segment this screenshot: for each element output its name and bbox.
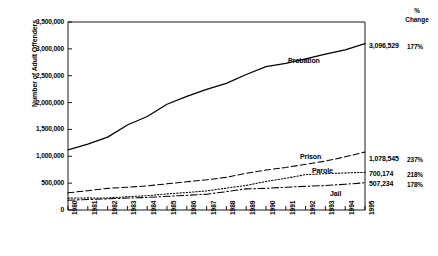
x-axis-tick-label: 1992 <box>309 201 316 215</box>
x-axis-tick-label: 1980 <box>71 201 78 215</box>
pct-change-parole: 218% <box>407 171 423 178</box>
x-axis-tick-label: 1995 <box>368 201 375 215</box>
x-axis-tick-label: 1991 <box>289 201 296 215</box>
x-axis-tick-labels: 1980198119821983198419851986198719881989… <box>0 0 438 256</box>
x-axis-tick-label: 1981 <box>91 201 98 215</box>
end-value-prison: 1,078,545 <box>369 155 399 162</box>
end-value-probation: 3,096,529 <box>369 42 399 49</box>
x-axis-tick-label: 1987 <box>210 201 217 215</box>
x-axis-tick-label: 1984 <box>150 201 157 215</box>
series-label-parole: Parole <box>312 167 333 174</box>
x-axis-tick-label: 1986 <box>190 201 197 215</box>
x-axis-tick-label: 1982 <box>111 201 118 215</box>
end-value-parole: 700,174 <box>369 170 393 177</box>
x-axis-tick-label: 1990 <box>269 201 276 215</box>
x-axis-tick-label: 1989 <box>249 201 256 215</box>
pct-change-prison: 237% <box>407 156 423 163</box>
line-chart: Number of Adult Offenders 0500,0001,000,… <box>0 0 438 256</box>
x-axis-tick-label: 1983 <box>130 201 137 215</box>
pct-change-jail: 178% <box>407 181 423 188</box>
series-label-probation: Probation <box>288 57 320 64</box>
end-value-jail: 507,234 <box>369 180 393 187</box>
x-axis-tick-label: 1993 <box>328 201 335 215</box>
pct-change-header: % Change <box>397 6 437 24</box>
series-label-jail: Jail <box>330 190 341 197</box>
pct-change-header-symbol: % <box>397 6 437 15</box>
x-axis-tick-label: 1994 <box>348 201 355 215</box>
x-axis-tick-label: 1985 <box>170 201 177 215</box>
pct-change-probation: 177% <box>407 43 423 50</box>
pct-change-header-word: Change <box>397 15 437 24</box>
x-axis-tick-label: 1988 <box>229 201 236 215</box>
series-label-prison: Prison <box>300 153 321 160</box>
